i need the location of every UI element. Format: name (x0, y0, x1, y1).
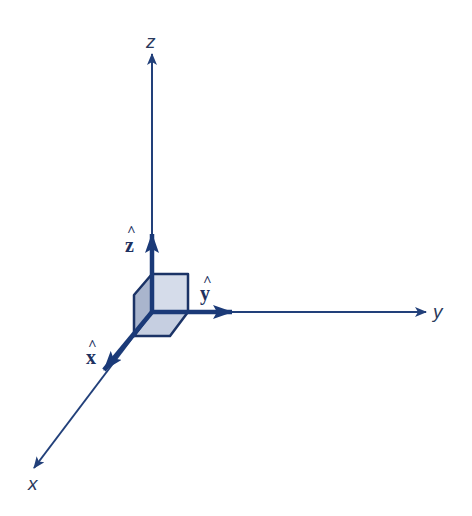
y-axis-label: y (431, 301, 444, 322)
cube-front-face (152, 274, 188, 312)
y-hat-label: ^ y (200, 273, 212, 305)
x-hat-vector (104, 312, 152, 370)
x-hat-letter: x (86, 346, 96, 368)
z-axis-label: z (145, 31, 156, 52)
coordinate-diagram: z y x ^ z ^ y ^ x (0, 0, 472, 516)
x-hat-label: ^ x (86, 337, 97, 368)
z-hat-label: ^ z (125, 223, 136, 256)
x-axis-label: x (27, 473, 39, 494)
y-hat-letter: y (200, 282, 210, 305)
z-hat-letter: z (125, 234, 134, 256)
diagram-svg: z y x ^ z ^ y ^ x (0, 0, 472, 516)
